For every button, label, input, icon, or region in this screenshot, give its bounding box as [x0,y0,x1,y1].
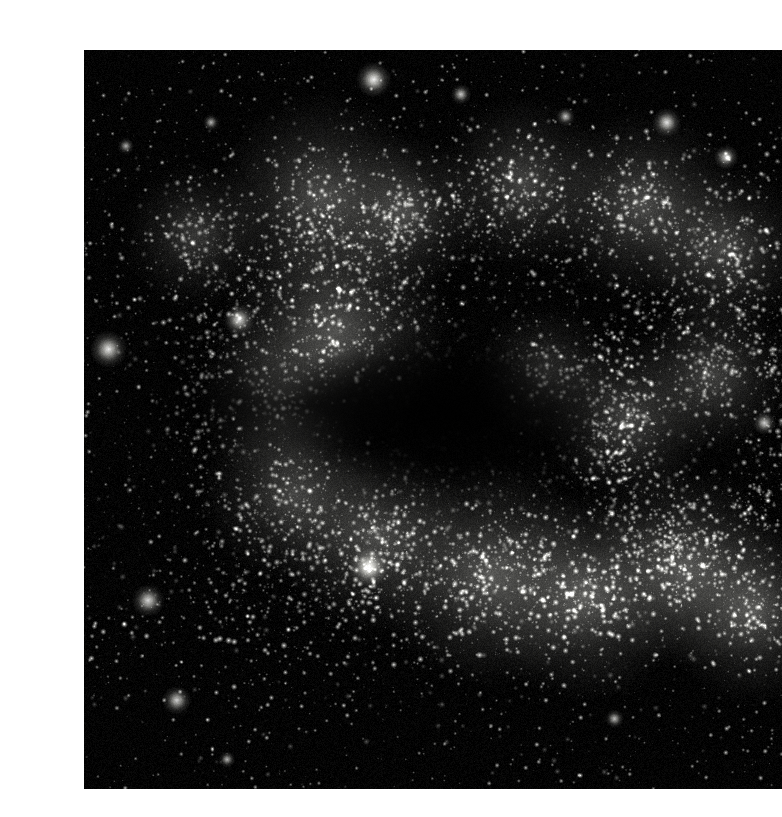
astronomical-image-plate [84,50,782,789]
dust-lane-void [84,50,782,789]
